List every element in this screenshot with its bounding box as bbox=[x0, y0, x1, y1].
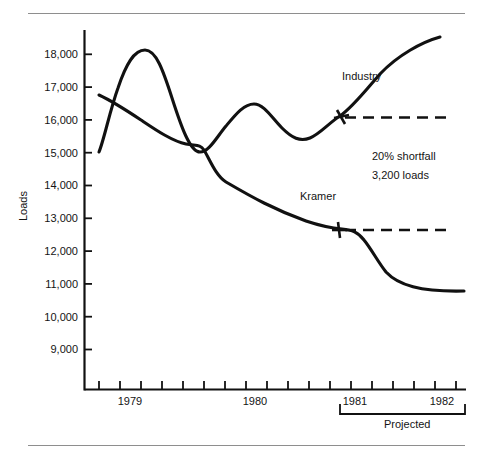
series-label-industry: Industry bbox=[342, 70, 381, 82]
y-tick-label-18000: 18,000 bbox=[26, 49, 78, 60]
x-tick-label-1982: 1982 bbox=[412, 396, 472, 407]
annotation-shortfall-percent: 20% shortfall bbox=[372, 150, 436, 162]
series-label-kramer: Kramer bbox=[300, 190, 336, 202]
line-chart-plot bbox=[0, 0, 491, 459]
y-tick-label-17000: 17,000 bbox=[26, 82, 78, 93]
y-tick-label-10000: 10,000 bbox=[26, 312, 78, 323]
axis-lines bbox=[85, 30, 467, 391]
chart-figure: Loads 18,000 17,000 16,000 15,000 14,000… bbox=[0, 0, 491, 459]
y-tick-label-11000: 11,000 bbox=[26, 279, 78, 290]
annotation-projected: Projected bbox=[384, 418, 430, 430]
y-tick-label-15000: 15,000 bbox=[26, 148, 78, 159]
x-tick-label-1981: 1981 bbox=[325, 396, 385, 407]
x-tick-label-1980: 1980 bbox=[225, 396, 285, 407]
y-tick-label-14000: 14,000 bbox=[26, 180, 78, 191]
series-line-kramer bbox=[99, 95, 464, 291]
annotation-shortfall-loads: 3,200 loads bbox=[372, 169, 429, 181]
y-axis-ticks bbox=[85, 54, 93, 349]
y-tick-label-12000: 12,000 bbox=[26, 246, 78, 257]
marker-kramer-cross bbox=[332, 222, 347, 238]
x-axis-ticks bbox=[99, 381, 456, 390]
y-tick-label-13000: 13,000 bbox=[26, 213, 78, 224]
x-tick-label-1979: 1979 bbox=[100, 396, 160, 407]
y-tick-label-9000: 9,000 bbox=[26, 344, 78, 355]
series-line-industry bbox=[99, 37, 440, 152]
y-tick-label-16000: 16,000 bbox=[26, 115, 78, 126]
